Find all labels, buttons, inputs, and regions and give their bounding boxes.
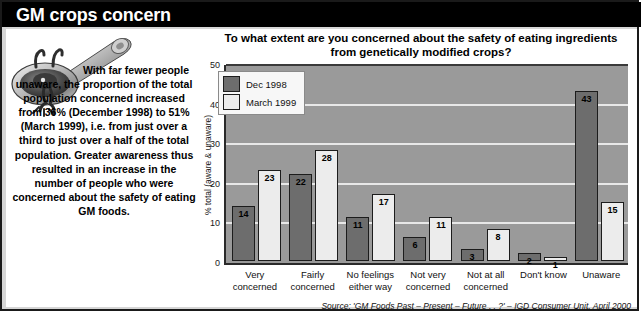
x-axis-label: Not veryconcerned xyxy=(399,269,457,299)
bar-value-label: 11 xyxy=(347,220,368,230)
bar-value-label: 22 xyxy=(290,177,311,187)
x-axis-label: Veryconcerned xyxy=(226,269,284,299)
x-axis-label: Unaware xyxy=(572,269,630,299)
bar-value-label: 23 xyxy=(259,173,280,183)
y-tick-10: 10 xyxy=(210,218,220,228)
bar-value-label: 8 xyxy=(488,232,509,242)
bar: 22 xyxy=(289,174,312,261)
legend-item-march-1999: March 1999 xyxy=(223,94,296,110)
x-axis-label: Fairlyconcerned xyxy=(284,269,342,299)
bar: 11 xyxy=(429,217,452,261)
article-body: With far fewer people unaware, the propo… xyxy=(12,63,196,218)
bar: 1 xyxy=(544,257,567,261)
bar: 28 xyxy=(315,150,338,261)
x-axis-label: No feelingseither way xyxy=(341,269,399,299)
bar-group: 21 xyxy=(514,63,571,261)
bar-group: 1117 xyxy=(342,63,399,261)
chart-legend: Dec 1998 March 1999 xyxy=(218,71,305,115)
bar: 6 xyxy=(403,237,426,261)
y-tick-0: 0 xyxy=(215,258,220,268)
bar-value-label: 15 xyxy=(602,205,623,215)
legend-item-dec-1998: Dec 1998 xyxy=(223,76,296,92)
bar: 2 xyxy=(518,253,541,261)
bar: 43 xyxy=(575,91,598,261)
bar: 8 xyxy=(487,229,510,261)
bar-group: 38 xyxy=(457,63,514,261)
y-axis-label: % total (aware & unaware) xyxy=(203,115,213,215)
bar: 23 xyxy=(258,170,281,261)
bar: 3 xyxy=(461,249,484,261)
bar-value-label: 3 xyxy=(462,252,483,262)
bar-value-label: 11 xyxy=(430,220,451,230)
bar-value-label: 2 xyxy=(519,256,540,266)
legend-swatch-dec-1998 xyxy=(223,76,240,92)
bar: 14 xyxy=(232,206,255,261)
header-band: GM crops concern xyxy=(2,2,641,27)
bar-value-label: 43 xyxy=(576,94,597,104)
legend-label-march-1999: March 1999 xyxy=(246,97,296,108)
chart-title: To what extent are you concerned about t… xyxy=(212,31,630,59)
x-axis-labels: VeryconcernedFairlyconcernedNo feelingse… xyxy=(226,269,630,299)
x-axis-label: Not at allconcerned xyxy=(457,269,515,299)
bar: 15 xyxy=(601,202,624,261)
y-tick-50: 50 xyxy=(210,60,220,70)
bar-group: 611 xyxy=(399,63,456,261)
bar-value-label: 28 xyxy=(316,153,337,163)
bar-group: 4315 xyxy=(571,63,628,261)
x-axis-label: Don't know xyxy=(515,269,573,299)
bar-value-label: 14 xyxy=(233,209,254,219)
legend-label-dec-1998: Dec 1998 xyxy=(246,79,287,90)
article-panel: With far fewer people unaware, the propo… xyxy=(6,29,202,307)
chart-source: Source: 'GM Foods Past – Present – Futur… xyxy=(202,301,631,311)
bar: 17 xyxy=(372,194,395,261)
bar-value-label: 17 xyxy=(373,197,394,207)
chart-panel: To what extent are you concerned about t… xyxy=(202,29,637,307)
bar-value-label: 6 xyxy=(404,240,425,250)
page-title: GM crops concern xyxy=(16,4,171,26)
legend-swatch-march-1999 xyxy=(223,94,240,110)
bar: 11 xyxy=(346,217,369,261)
